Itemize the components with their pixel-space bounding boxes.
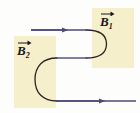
field-label-b2: B2 (17, 40, 30, 57)
vector-arrow-b1-icon (100, 11, 113, 16)
physics-field-diagram: B1 B2 (0, 0, 140, 113)
field-label-b1-subscript: 1 (109, 22, 113, 31)
field-label-b2-subscript: 2 (26, 51, 30, 60)
vector-arrow-b2-icon (17, 40, 30, 45)
field-label-b1-symbol: B (100, 15, 109, 28)
field-label-b2-symbol: B (17, 44, 26, 57)
field-region-b1-rect (92, 8, 134, 68)
field-label-b1: B1 (100, 11, 113, 28)
